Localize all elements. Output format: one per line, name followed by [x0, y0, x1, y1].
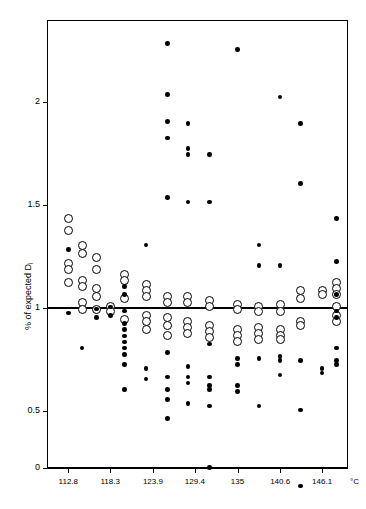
data-point-filled	[165, 350, 170, 355]
y-axis-tick-label: 0	[7, 463, 40, 472]
data-point-filled	[122, 362, 127, 367]
data-point-filled	[207, 152, 212, 157]
data-point-filled	[207, 200, 212, 205]
y-axis-title-subscript: i	[27, 262, 34, 264]
x-axis-tick	[195, 469, 196, 473]
data-point-filled	[257, 263, 262, 268]
data-point-filled	[94, 315, 99, 320]
data-point-open	[276, 307, 285, 316]
data-point-open	[142, 292, 151, 301]
data-point-filled	[165, 119, 170, 124]
x-axis-tick-label: 135	[218, 477, 258, 486]
data-point-filled	[122, 334, 127, 339]
data-point-filled	[186, 152, 191, 157]
data-point-filled	[334, 362, 339, 367]
y-axis-tick-label: 2	[7, 97, 40, 106]
x-axis-tick-label: 112.8	[48, 477, 88, 486]
data-point-open	[233, 305, 242, 314]
data-point-open	[163, 321, 172, 330]
data-point-filled	[94, 307, 99, 312]
data-point-filled	[165, 41, 170, 46]
data-point-filled	[298, 484, 303, 489]
data-point-filled	[298, 121, 303, 126]
data-point-open	[254, 307, 263, 316]
data-point-filled	[207, 404, 212, 409]
x-axis-tick-label: 123.9	[133, 477, 173, 486]
x-axis-line	[47, 468, 348, 469]
data-point-filled	[235, 389, 240, 394]
data-point-filled	[165, 92, 170, 97]
x-axis-tick-label: 118.3	[90, 477, 130, 486]
data-point-filled	[235, 362, 240, 367]
data-point-filled	[207, 465, 212, 470]
data-point-open	[64, 214, 73, 223]
data-point-filled	[122, 321, 127, 326]
x-axis-tick	[153, 469, 154, 473]
data-point-filled	[165, 416, 170, 421]
data-point-filled	[334, 292, 339, 297]
plot-area	[47, 20, 348, 468]
data-point-filled	[122, 352, 127, 357]
data-point-filled	[235, 356, 240, 361]
data-point-filled	[122, 292, 127, 297]
data-point-filled	[108, 305, 113, 310]
data-point-open	[78, 282, 87, 291]
data-point-filled	[235, 383, 240, 388]
data-point-filled	[334, 315, 339, 320]
data-point-open	[78, 305, 87, 314]
data-point-open	[318, 290, 327, 299]
x-axis-tick	[68, 469, 69, 473]
scatter-plot-figure: % of expected Di °C 00.511.52 112.8118.3…	[0, 0, 366, 509]
data-point-filled	[235, 47, 240, 52]
y-axis-tick-label: 1	[7, 303, 40, 312]
y-axis-tick-label: 1.5	[7, 200, 40, 209]
data-point-filled	[108, 313, 113, 318]
data-point-filled	[66, 311, 71, 316]
y-axis-line	[47, 20, 48, 468]
data-point-filled	[165, 136, 170, 141]
data-point-filled	[165, 195, 170, 200]
data-point-open	[78, 249, 87, 258]
x-axis-tick-label: 146.1	[302, 477, 342, 486]
data-point-filled	[298, 181, 303, 186]
y-axis-title: % of expected Di	[24, 262, 35, 330]
x-axis-tick	[238, 469, 239, 473]
x-axis-tick	[280, 469, 281, 473]
data-point-open	[92, 253, 101, 262]
data-point-filled	[165, 387, 170, 392]
data-point-filled	[298, 358, 303, 363]
y-axis-tick-label: 0.5	[7, 406, 40, 415]
data-point-filled	[334, 216, 339, 221]
data-point-filled	[207, 387, 212, 392]
x-axis-unit-label: °C	[350, 477, 359, 486]
data-point-filled	[66, 247, 71, 252]
data-point-filled	[334, 259, 339, 264]
data-point-filled	[257, 356, 262, 361]
data-point-open	[64, 278, 73, 287]
x-axis-tick-label: 140.6	[260, 477, 300, 486]
y-axis-title-text: % of expected D	[23, 264, 33, 330]
data-point-filled	[207, 375, 212, 380]
data-point-filled	[122, 327, 127, 332]
x-axis-tick	[110, 469, 111, 473]
data-point-filled	[207, 342, 212, 347]
data-point-filled	[186, 121, 191, 126]
x-axis-tick	[322, 469, 323, 473]
data-point-filled	[186, 146, 191, 151]
data-point-filled	[122, 387, 127, 392]
data-point-filled	[165, 375, 170, 380]
data-point-filled	[122, 284, 127, 289]
data-point-open	[142, 325, 151, 334]
data-point-filled	[165, 397, 170, 402]
x-axis-tick-label: 129.4	[175, 477, 215, 486]
